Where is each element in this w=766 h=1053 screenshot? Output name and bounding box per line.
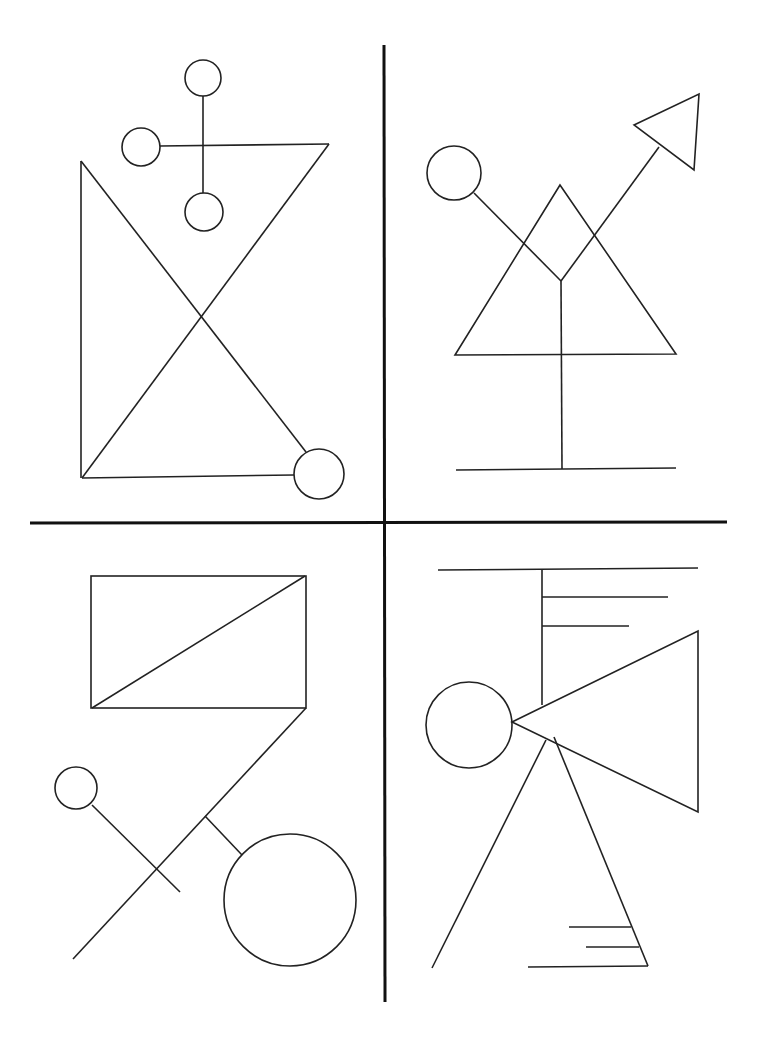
triangle-shape xyxy=(512,631,698,812)
line-segment xyxy=(432,740,546,968)
line-segment xyxy=(73,708,306,959)
diagram-canvas xyxy=(0,0,766,1053)
line-segment xyxy=(160,144,329,146)
circle-shape xyxy=(55,767,97,809)
quadrant-bottom-right-figure xyxy=(426,568,698,968)
quadrant-top-left-figure xyxy=(81,60,344,499)
circle-shape xyxy=(224,834,356,966)
line-segment xyxy=(528,966,648,967)
line-segment xyxy=(456,468,676,470)
triangle-shape xyxy=(634,94,699,170)
circle-shape xyxy=(185,193,223,231)
circle-shape xyxy=(185,60,221,96)
circle-shape xyxy=(294,449,344,499)
line-segment xyxy=(82,475,294,478)
line-segment xyxy=(92,805,180,892)
line-segment xyxy=(561,281,562,469)
quadrant-dividers xyxy=(30,45,727,1002)
line-segment xyxy=(82,144,329,478)
circle-shape xyxy=(122,128,160,166)
quadrant-top-right-figure xyxy=(427,94,699,470)
horizontal-divider-line xyxy=(30,522,727,523)
line-segment xyxy=(81,161,306,452)
line-segment xyxy=(205,816,242,855)
line-segment xyxy=(554,737,648,966)
quadrant-bottom-left-figure xyxy=(55,576,356,966)
line-segment xyxy=(438,568,698,570)
circle-shape xyxy=(426,682,512,768)
line-segment xyxy=(561,147,659,281)
line-segment xyxy=(474,193,561,281)
triangle-shape xyxy=(455,185,676,355)
circle-shape xyxy=(427,146,481,200)
line-segment xyxy=(92,576,305,708)
